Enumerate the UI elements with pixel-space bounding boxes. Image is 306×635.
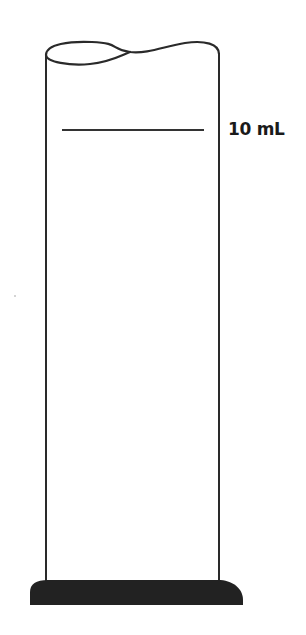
graduated-cylinder-diagram: 10 mL [0,0,306,635]
cylinder-drawing [0,0,306,635]
speck [14,295,15,296]
cylinder-walls [46,54,219,582]
cylinder-base [30,580,243,605]
cylinder-rim [46,42,219,65]
graduation-label: 10 mL [228,119,285,139]
